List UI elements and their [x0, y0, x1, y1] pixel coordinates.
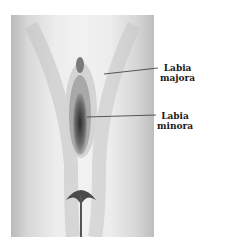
labia-majora-label: Labia majora: [160, 63, 195, 83]
label-line: majora: [160, 73, 195, 83]
labia-minora-leader-line: [87, 115, 156, 117]
label-line: minora: [157, 121, 193, 131]
callout-lines: [0, 0, 233, 248]
labia-majora-leader-line: [104, 68, 158, 74]
labia-minora-label: Labia minora: [157, 111, 193, 131]
label-line: Labia: [160, 63, 195, 73]
label-line: Labia: [157, 111, 193, 121]
